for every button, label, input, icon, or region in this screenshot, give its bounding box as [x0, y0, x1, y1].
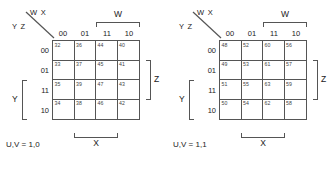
group-bracket-z	[313, 60, 318, 100]
cell-minterm-index: 55	[243, 81, 249, 87]
cell-minterm-index: 41	[119, 61, 125, 67]
cell-minterm-index: 60	[265, 42, 271, 48]
group-bracket-y	[189, 80, 194, 120]
group-label-z: Z	[154, 74, 159, 84]
kmap-cell[interactable]: 51	[220, 80, 242, 100]
cell-minterm-index: 63	[265, 81, 271, 87]
cell-minterm-index: 39	[76, 81, 82, 87]
column-header-01: 01	[74, 29, 96, 38]
kmap-caption: U,V = 1,0	[6, 140, 40, 150]
cell-minterm-index: 52	[243, 42, 249, 48]
kmap-cell[interactable]: 56	[285, 41, 307, 61]
cell-minterm-index: 38	[76, 100, 82, 106]
row-axis-label: Y Z	[12, 22, 26, 31]
cell-minterm-index: 40	[119, 42, 125, 48]
kmap-cell[interactable]: 36	[75, 41, 97, 61]
kmap-cell[interactable]: 44	[96, 41, 118, 61]
group-label-z: Z	[321, 74, 326, 84]
column-header-10: 10	[118, 29, 140, 38]
kmap-cell[interactable]: 48	[220, 41, 242, 61]
kmap-cell[interactable]: 52	[242, 41, 264, 61]
cell-minterm-index: 35	[55, 81, 61, 87]
kmap-cell[interactable]: 35	[53, 80, 75, 100]
group-bracket-y	[22, 80, 27, 120]
cell-minterm-index: 62	[265, 100, 271, 106]
row-header-11: 11	[33, 86, 49, 95]
column-header-10: 10	[285, 29, 307, 38]
group-bracket-w	[263, 22, 307, 27]
kmap-cell[interactable]: 46	[96, 100, 118, 120]
group-label-y: Y	[12, 94, 18, 104]
group-label-x: X	[74, 138, 118, 148]
kmap-uv-10: W X Y Z W 00 01 11 10 00 01 11 10 Y 32 3…	[0, 0, 168, 169]
kmap-grid: 48 52 60 56 49 53 61 57 51 55 63 59 50 5…	[219, 40, 307, 120]
kmap-cell[interactable]: 38	[75, 100, 97, 120]
cell-minterm-index: 57	[286, 61, 292, 67]
kmap-cell[interactable]: 57	[285, 61, 307, 81]
cell-minterm-index: 33	[55, 61, 61, 67]
cell-minterm-index: 58	[286, 100, 292, 106]
kmap-cell[interactable]: 59	[285, 80, 307, 100]
cell-minterm-index: 42	[119, 100, 125, 106]
kmap-cell[interactable]: 39	[75, 80, 97, 100]
kmap-cell[interactable]: 41	[118, 61, 140, 81]
kmap-cell[interactable]: 45	[96, 61, 118, 81]
kmap-cell[interactable]: 58	[285, 100, 307, 120]
kmap-cell[interactable]: 47	[96, 80, 118, 100]
group-bracket-z	[146, 60, 151, 100]
cell-minterm-index: 34	[55, 100, 61, 106]
row-header-00: 00	[200, 46, 216, 55]
cell-minterm-index: 36	[76, 42, 82, 48]
cell-minterm-index: 32	[55, 42, 61, 48]
row-axis-label: Y Z	[179, 22, 193, 31]
cell-minterm-index: 46	[98, 100, 104, 106]
kmap-figure: W X Y Z W 00 01 11 10 00 01 11 10 Y 32 3…	[0, 0, 335, 169]
kmap-cell[interactable]: 43	[118, 80, 140, 100]
cell-minterm-index: 53	[243, 61, 249, 67]
cell-minterm-index: 61	[265, 61, 271, 67]
kmap-cell[interactable]: 53	[242, 61, 264, 81]
column-axis-label: W X	[197, 8, 214, 17]
cell-minterm-index: 47	[98, 81, 104, 87]
kmap-cell[interactable]: 55	[242, 80, 264, 100]
cell-minterm-index: 56	[286, 42, 292, 48]
cell-minterm-index: 44	[98, 42, 104, 48]
group-label-y: Y	[179, 94, 185, 104]
column-header-00: 00	[219, 29, 241, 38]
kmap-cell[interactable]: 63	[263, 80, 285, 100]
cell-minterm-index: 48	[222, 42, 228, 48]
row-header-11: 11	[200, 86, 216, 95]
cell-minterm-index: 45	[98, 61, 104, 67]
cell-minterm-index: 49	[222, 61, 228, 67]
kmap-cell[interactable]: 34	[53, 100, 75, 120]
kmap-cell[interactable]: 37	[75, 61, 97, 81]
cell-minterm-index: 54	[243, 100, 249, 106]
kmap-cell[interactable]: 49	[220, 61, 242, 81]
kmap-cell[interactable]: 60	[263, 41, 285, 61]
kmap-cell[interactable]: 42	[118, 100, 140, 120]
column-header-11: 11	[96, 29, 118, 38]
cell-minterm-index: 51	[222, 81, 228, 87]
row-header-01: 01	[33, 66, 49, 75]
kmap-caption: U,V = 1,1	[173, 140, 207, 150]
cell-minterm-index: 37	[76, 61, 82, 67]
kmap-cell[interactable]: 62	[263, 100, 285, 120]
group-label-w: W	[263, 9, 307, 19]
row-header-00: 00	[33, 46, 49, 55]
row-header-01: 01	[200, 66, 216, 75]
kmap-cell[interactable]: 32	[53, 41, 75, 61]
kmap-cell[interactable]: 33	[53, 61, 75, 81]
group-bracket-w	[96, 22, 140, 27]
column-header-01: 01	[241, 29, 263, 38]
cell-minterm-index: 59	[286, 81, 292, 87]
kmap-cell[interactable]: 50	[220, 100, 242, 120]
row-header-10: 10	[200, 106, 216, 115]
group-label-x: X	[241, 138, 285, 148]
group-label-w: W	[96, 9, 140, 19]
cell-minterm-index: 50	[222, 100, 228, 106]
kmap-cell[interactable]: 54	[242, 100, 264, 120]
kmap-cell[interactable]: 40	[118, 41, 140, 61]
column-header-00: 00	[52, 29, 74, 38]
column-header-11: 11	[263, 29, 285, 38]
kmap-cell[interactable]: 61	[263, 61, 285, 81]
